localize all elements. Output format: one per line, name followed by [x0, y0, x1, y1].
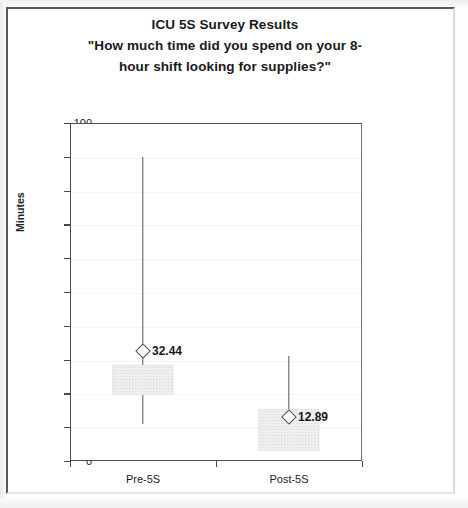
mean-value-label: 12.89: [298, 410, 328, 424]
y-axis-label: Minutes: [14, 216, 26, 232]
box-quartile-range: [112, 365, 173, 395]
gridline: [71, 225, 361, 226]
gridline: [71, 327, 361, 328]
gridline: [71, 361, 361, 362]
gridline: [71, 192, 361, 193]
scan-edge-bottom: [0, 498, 468, 508]
x-axis-category-label: Pre-5S: [83, 473, 203, 485]
chart-subtitle-line-2: hour shift looking for supplies?": [20, 56, 430, 77]
scan-edge-top: [0, 0, 468, 7]
gridline: [71, 293, 361, 294]
chart-title: ICU 5S Survey Results: [20, 14, 430, 35]
gridline: [71, 259, 361, 260]
chart-page: ICU 5S Survey Results "How much time did…: [0, 0, 468, 508]
chart-title-block: ICU 5S Survey Results "How much time did…: [20, 14, 430, 77]
x-axis-category-label: Post-5S: [229, 473, 349, 485]
x-axis-tick-mark: [362, 461, 363, 467]
chart-subtitle-line-1: "How much time did you spend on your 8-: [20, 35, 430, 56]
plot-area-wrapper: 32.4412.89: [70, 123, 362, 461]
mean-value-label: 32.44: [152, 344, 182, 358]
x-axis-tick-mark: [216, 461, 217, 467]
gridline: [71, 158, 361, 159]
x-axis-tick-mark: [70, 461, 71, 467]
